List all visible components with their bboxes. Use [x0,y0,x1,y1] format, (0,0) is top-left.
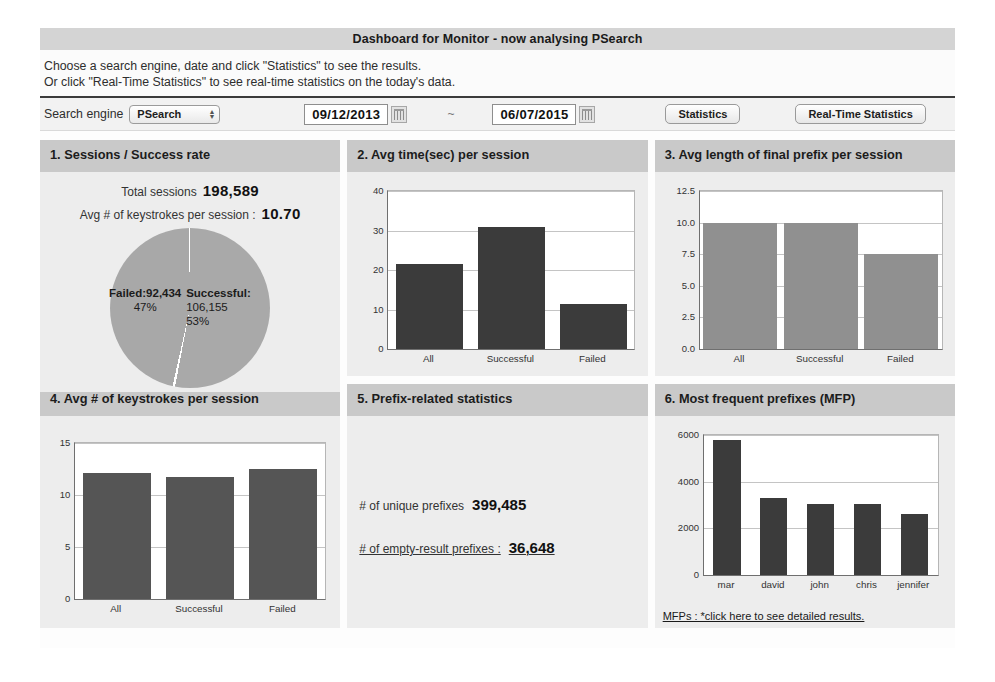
x-axis-tick-label: All [74,603,157,614]
y-axis-tick-label: 10.0 [677,216,696,227]
panel2-title: 2. Avg time(sec) per session [347,140,647,172]
empty-prefixes-label: # of empty-result prefixes : [359,542,500,556]
bar-cell [158,443,241,599]
search-engine-value: PSearch [137,108,181,120]
avg-keystrokes-row: Avg # of keystrokes per session :10.70 [46,205,334,222]
page-title: Dashboard for Monitor - now analysing PS… [353,32,643,46]
y-axis-tick-label: 5.0 [682,279,695,290]
x-axis-labels: AllSuccessfulFailed [387,353,633,364]
empty-result-prefixes-link[interactable]: # of empty-result prefixes :36,648 [359,539,641,556]
range-separator: ~ [447,107,454,121]
x-axis-labels: AllSuccessfulFailed [699,353,941,364]
unique-prefixes-label: # of unique prefixes [359,499,464,513]
successful-value: 106,155 [186,300,282,314]
bar-cell [797,435,844,575]
x-axis-tick-label: Failed [551,353,633,364]
y-axis-tick-label: 40 [373,185,384,196]
panel6-body: 0200040006000mardavidjohnchrisjennifer M… [655,416,955,628]
bar [713,440,740,575]
plot-area [74,442,326,600]
bar-series [704,435,938,575]
x-axis-tick-label: Successful [157,603,240,614]
panel3-title: 3. Avg length of final prefix per sessio… [655,140,955,172]
bar-cell [891,435,938,575]
mfp-details-link[interactable]: MFPs : *click here to see detailed resul… [663,610,865,622]
window-title-bar: Dashboard for Monitor - now analysing PS… [40,28,955,50]
panel-avg-time-per-session: 2. Avg time(sec) per session 010203040Al… [347,140,647,376]
bar [864,254,938,349]
bar-series [75,443,325,599]
bar [560,304,627,349]
y-axis-tick-label: 2.5 [682,311,695,322]
bar-cell [470,191,552,349]
updown-arrows-icon: ▲▼ [208,109,215,119]
plot-area [387,190,635,350]
bar-cell [704,435,751,575]
panel-most-frequent-prefixes: 6. Most frequent prefixes (MFP) 02000400… [655,384,955,628]
avg-keystrokes-bar-chart: 051015AllSuccessfulFailed [46,420,334,624]
success-rate-pie-chart: Failed:92,434 47% Successful: 106,155 53… [110,228,270,388]
unique-prefixes-row: # of unique prefixes399,485 [359,496,641,513]
calendar-icon-to[interactable] [579,106,595,123]
y-axis-tick-label: 6000 [678,429,699,440]
x-axis-tick-label: Failed [241,603,324,614]
date-from-input[interactable]: 09/12/2013 [304,104,388,125]
panel1-body: Total sessions198,589 Avg # of keystroke… [40,172,340,392]
bar-cell [861,191,942,349]
panel-grid: 1. Sessions / Success rate Total session… [40,131,955,628]
bar [901,514,928,575]
y-axis-tick-label: 2000 [678,522,699,533]
bar-cell [750,435,797,575]
bar-cell [388,191,470,349]
panel6-title: 6. Most frequent prefixes (MFP) [655,384,955,416]
failed-percent: 47% [102,300,188,314]
search-engine-select[interactable]: PSearch ▲▼ [129,105,220,124]
y-axis-tick-label: 7.5 [682,248,695,259]
x-axis-labels: AllSuccessfulFailed [74,603,324,614]
bar [703,223,777,349]
statistics-button[interactable]: Statistics [665,104,740,124]
panel5-title: 5. Prefix-related statistics [347,384,647,416]
avg-prefix-length-bar-chart: 0.02.55.07.510.012.5AllSuccessfulFailed [661,176,949,372]
avg-time-bar-chart: 010203040AllSuccessfulFailed [353,176,641,372]
avg-keystrokes-label: Avg # of keystrokes per session : [80,208,256,222]
panel1-title: 1. Sessions / Success rate [40,140,340,172]
bar [784,223,858,349]
date-to-input[interactable]: 06/07/2015 [492,104,576,125]
plot-area [699,190,943,350]
y-axis-tick-label: 10 [60,489,71,500]
x-axis-tick-label: john [796,579,843,590]
y-axis-tick-label: 20 [373,264,384,275]
panel-prefix-statistics: 5. Prefix-related statistics # of unique… [347,384,647,628]
failed-label: Failed:92,434 [109,287,181,299]
instruction-line-2: Or click "Real-Time Statistics" to see r… [44,74,951,90]
panel4-body: 051015AllSuccessfulFailed [40,416,340,628]
bar [396,264,463,349]
bar-cell [780,191,861,349]
total-sessions-value: 198,589 [203,182,259,199]
x-axis-tick-label: Failed [860,353,941,364]
pie-label-successful: Successful: 106,155 53% [186,286,282,328]
x-axis-tick-label: All [699,353,780,364]
x-axis-tick-label: mar [703,579,750,590]
calendar-icon-from[interactable] [391,106,407,123]
bar [854,504,881,575]
panel-avg-keystrokes: 4. Avg # of keystrokes per session 05101… [40,384,340,628]
x-axis-tick-label: david [749,579,796,590]
panel5-body: # of unique prefixes399,485 # of empty-r… [347,416,647,628]
total-sessions-label: Total sessions [121,185,196,199]
bar-series [388,191,634,349]
bar [807,504,834,575]
y-axis-tick-label: 12.5 [677,185,696,196]
search-engine-label: Search engine [44,107,123,121]
empty-prefixes-value: 36,648 [509,539,555,556]
instruction-line-1: Choose a search engine, date and click "… [44,58,951,74]
unique-prefixes-value: 399,485 [472,496,526,513]
y-axis-tick-label: 0.0 [682,343,695,354]
successful-percent: 53% [186,314,282,328]
bar [760,498,787,575]
x-axis-tick-label: Successful [469,353,551,364]
bar-cell [700,191,781,349]
y-axis-tick-label: 10 [373,303,384,314]
realtime-statistics-button[interactable]: Real-Time Statistics [795,104,925,124]
